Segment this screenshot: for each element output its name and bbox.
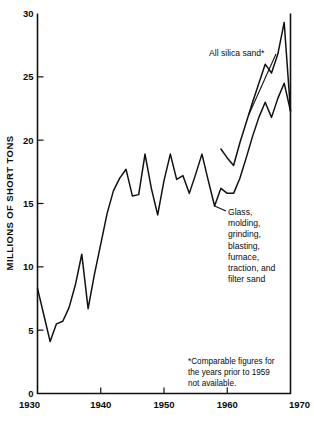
y-tick-label-15: 15 xyxy=(23,198,34,209)
glass-molding-annotation-line-1: molding, xyxy=(228,218,260,228)
all-silica-sand-annotation-text: All silica sand* xyxy=(209,48,265,58)
x-tick-label-1970: 1970 xyxy=(289,399,310,410)
y-tick-label-20: 20 xyxy=(23,135,34,146)
glass-molding-annotation-line-4: furnace, xyxy=(228,252,259,262)
y-tick-label-30: 30 xyxy=(23,8,34,19)
glass-molding-annotation-line-5: traction, and xyxy=(228,263,276,273)
glass-molding-annotation-line-2: grinding, xyxy=(228,229,261,239)
glass-molding-annotation-line-0: Glass, xyxy=(228,207,252,217)
x-tick-label-1950: 1950 xyxy=(153,399,174,410)
y-tick-label-0: 0 xyxy=(28,388,33,399)
x-tick-label-1940: 1940 xyxy=(90,399,111,410)
line-chart-svg: 051015202530 19301940195019601970 MILLIO… xyxy=(0,0,314,430)
chart-figure: 051015202530 19301940195019601970 MILLIO… xyxy=(0,0,314,430)
x-tick-label-1960: 1960 xyxy=(217,399,238,410)
y-tick-label-25: 25 xyxy=(23,71,34,82)
y-tick-label-5: 5 xyxy=(28,325,34,336)
footnote-line-0: *Comparable figures for xyxy=(188,357,275,366)
y-axis-title: MILLIONS OF SHORT TONS xyxy=(4,136,15,271)
y-axis-title-group: MILLIONS OF SHORT TONS xyxy=(4,136,15,271)
glass-molding-annotation-line-3: blasting, xyxy=(228,241,260,251)
y-tick-label-10: 10 xyxy=(23,261,34,272)
footnote-line-2: not available. xyxy=(188,379,236,388)
footnote-line-1: the years prior to 1959 xyxy=(188,368,270,377)
glass-molding-annotation-line-6: filter sand xyxy=(228,274,265,284)
x-tick-label-1930: 1930 xyxy=(19,399,40,410)
